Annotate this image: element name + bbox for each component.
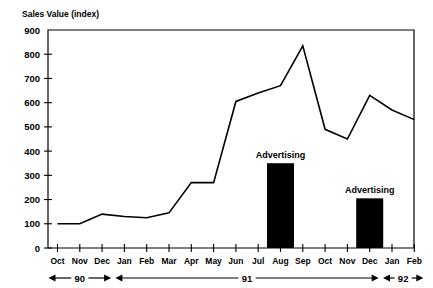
x-tick-label: Mar — [161, 256, 177, 266]
y-tick-label: 500 — [24, 121, 40, 132]
sales-line-series — [58, 46, 415, 224]
x-tick-label: Aug — [272, 256, 289, 266]
x-tick-label: Nov — [339, 256, 355, 266]
year-bracket-label: 90 — [75, 273, 86, 284]
year-bracket-arrow-right — [372, 274, 379, 281]
x-tick-label: Jun — [228, 256, 243, 266]
x-tick-label: Jul — [252, 256, 264, 266]
y-tick-label: 600 — [24, 97, 40, 108]
y-tick-label: 800 — [24, 49, 40, 60]
y-tick-label: 900 — [24, 25, 40, 36]
chart-canvas: Sales Value (index) 01002003004005006007… — [0, 0, 433, 288]
x-tick-label: Dec — [94, 256, 110, 266]
year-bracket-label: 92 — [398, 273, 409, 284]
y-tick-label: 700 — [24, 73, 40, 84]
x-tick-label: Sep — [295, 256, 311, 266]
x-tick-label: May — [205, 256, 222, 266]
advertising-bars: AdvertisingAdvertising — [256, 150, 395, 248]
year-bracket-arrow-left — [115, 274, 122, 281]
x-tick-label: Jan — [385, 256, 400, 266]
sales-value-polyline — [58, 46, 415, 224]
year-bracket-label: 91 — [242, 273, 253, 284]
x-tick-label: Feb — [407, 256, 422, 266]
sales-value-chart: Sales Value (index) 01002003004005006007… — [0, 0, 433, 288]
x-tick-label: Oct — [50, 256, 64, 266]
year-bracket-arrow-left — [49, 274, 56, 281]
y-tick-label: 0 — [35, 243, 40, 254]
x-axis-labels: OctNovDecJanFebMarAprMayJunJulAugSepOctN… — [50, 256, 421, 266]
x-tick-label: Dec — [362, 256, 378, 266]
x-tick-label: Feb — [139, 256, 154, 266]
y-tick-label: 200 — [24, 194, 40, 205]
x-tick-label: Nov — [72, 256, 88, 266]
y-tick-label: 400 — [24, 146, 40, 157]
y-axis-title: Sales Value (index) — [22, 9, 99, 19]
advertising-bar-label: Advertising — [345, 185, 395, 195]
year-bracket-arrow-right — [416, 274, 423, 281]
advertising-bar-label: Advertising — [256, 150, 306, 160]
advertising-bar — [267, 163, 294, 248]
x-tick-label: Jan — [117, 256, 132, 266]
y-tick-label: 100 — [24, 218, 40, 229]
y-tick-label: 300 — [24, 170, 40, 181]
advertising-bar — [356, 198, 383, 248]
year-bracket-arrow-right — [104, 274, 111, 281]
x-tick-label: Apr — [184, 256, 199, 266]
year-bracket-arrow-left — [383, 274, 390, 281]
x-tick-label: Oct — [318, 256, 332, 266]
y-axis-title-group: Sales Value (index) — [22, 9, 99, 19]
year-brackets: 909192 — [49, 273, 424, 284]
